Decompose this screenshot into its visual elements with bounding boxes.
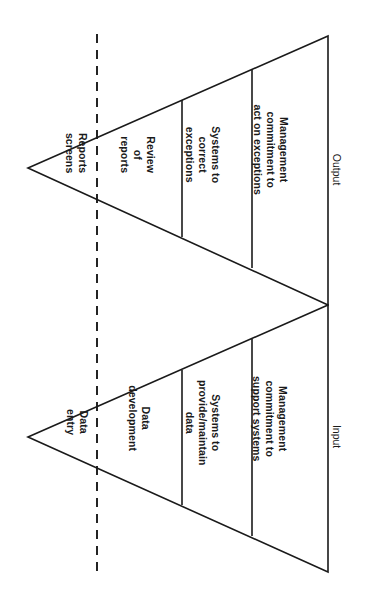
axis-label-input: Input bbox=[329, 409, 342, 465]
diagram-canvas: Reports screens Review of reports System… bbox=[0, 0, 366, 600]
output-triangle-shape bbox=[28, 36, 328, 305]
input-triangle-shape bbox=[28, 305, 328, 572]
axis-label-output: Output bbox=[329, 142, 342, 198]
upper-triangle-outline bbox=[28, 36, 328, 305]
lower-triangle-outline bbox=[28, 305, 328, 572]
diagram-geometry bbox=[0, 0, 366, 600]
